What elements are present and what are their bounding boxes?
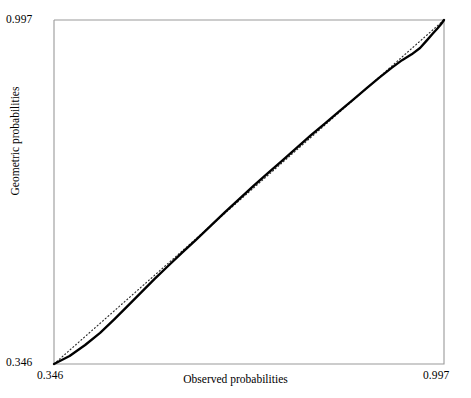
plot-canvas xyxy=(0,0,471,398)
pp-plot-figure: 0.997 0.346 0.346 0.997 Observed probabi… xyxy=(0,0,471,398)
y-axis-title: Geometric probabilities xyxy=(9,87,21,196)
y-axis-max-tick-label: 0.997 xyxy=(6,13,32,25)
y-axis-title-wrapper: Geometric probabilities xyxy=(5,61,27,221)
y-axis-min-tick-label: 0.346 xyxy=(6,356,32,368)
x-axis-title: Observed probabilities xyxy=(0,373,471,385)
